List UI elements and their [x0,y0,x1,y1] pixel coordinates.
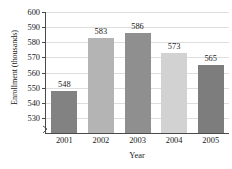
bar-chart-figure: Enrollment (thousands) 53054055056057058… [0,0,232,169]
y-axis-tick-label: 580 [27,38,40,47]
y-axis-tick-label: 590 [27,23,40,32]
y-axis-title: Enrollment (thousands) [10,3,19,133]
x-axis-tick-label: 2001 [56,136,73,145]
x-axis-tick-label: 2004 [166,136,183,145]
bar-2003: 5862003 [125,33,151,133]
y-axis-tick [42,42,46,43]
bar-value-label: 573 [168,42,181,51]
bar-value-label: 583 [95,27,108,36]
x-axis-tick-label: 2003 [129,136,146,145]
y-axis-tick [42,12,46,13]
bar-2004: 5732004 [161,53,187,133]
y-axis-tick [42,57,46,58]
bar-2001: 5482001 [51,91,77,133]
x-axis-title: Year [45,151,229,160]
y-axis-tick-label: 600 [27,8,40,17]
bar-value-label: 548 [58,80,71,89]
y-axis-tick [42,73,46,74]
bar-value-label: 565 [204,54,217,63]
y-axis-tick-label: 540 [27,98,40,107]
y-axis-tick-label: 530 [27,113,40,122]
y-axis-tick-label: 550 [27,83,40,92]
x-axis-tick-label: 2005 [202,136,219,145]
gridline [46,12,229,13]
y-axis-tick [42,27,46,28]
y-axis-tick [42,103,46,104]
plot-area: 5305405505605705805906005482001583200258… [45,12,229,134]
bar-2005: 5652005 [198,65,224,133]
bar-value-label: 586 [131,22,144,31]
y-axis-tick [42,118,46,119]
y-axis-tick-label: 570 [27,53,40,62]
x-axis-tick-label: 2002 [93,136,110,145]
bar-2002: 5832002 [88,38,114,133]
y-axis-tick [42,88,46,89]
y-axis-tick-label: 560 [27,68,40,77]
